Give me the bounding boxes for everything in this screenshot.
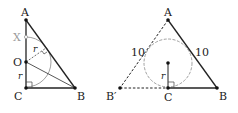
label-side-right-10: 10 (195, 46, 209, 59)
point-X (24, 35, 27, 38)
right-figure: A B′ C B r 10 10 (106, 6, 227, 104)
side-AB (168, 20, 217, 88)
point-C (166, 86, 170, 90)
label-r-tangent: r (33, 44, 38, 54)
label-A: A (163, 6, 173, 19)
label-C: C (164, 91, 172, 104)
label-O: O (13, 56, 22, 69)
label-r: r (161, 71, 166, 81)
right-angle-mark-tangent (42, 51, 47, 54)
side-AB (26, 20, 75, 88)
point-C (24, 86, 28, 90)
label-B-prime: B′ (106, 90, 117, 103)
label-C: C (14, 90, 22, 103)
point-incenter (166, 61, 170, 65)
point-B-prime (118, 86, 122, 90)
incircle-arc (26, 37, 51, 87)
point-O (24, 60, 28, 64)
geometry-diagram: A X O C B r r A B′ C B r 10 10 (0, 0, 238, 113)
label-B: B (219, 90, 227, 103)
label-X: X (13, 31, 21, 44)
label-r-OC: r (18, 71, 23, 81)
label-side-left-10: 10 (131, 46, 145, 59)
label-B: B (77, 90, 85, 103)
label-A: A (20, 6, 30, 19)
left-figure: A X O C B r r (13, 6, 85, 103)
